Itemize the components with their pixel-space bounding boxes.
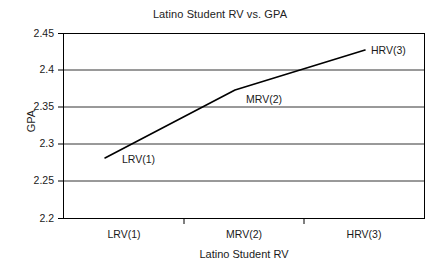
ytick-label-2-2: 2.2 xyxy=(20,212,54,224)
plot-frame xyxy=(64,34,425,219)
xtick-label-lrv: LRV(1) xyxy=(64,228,184,240)
point-label-mrv: MRV(2) xyxy=(246,93,282,105)
point-label-lrv: LRV(1) xyxy=(122,153,155,165)
point-label-hrv: HRV(3) xyxy=(371,44,406,56)
line-chart: Latino Student RV vs. GPA 2.45 2.4 2.35 … xyxy=(0,0,440,268)
ytick-label-2-25: 2.25 xyxy=(20,174,54,186)
xtick-label-hrv: HRV(3) xyxy=(304,228,424,240)
xtick-label-mrv: MRV(2) xyxy=(184,228,304,240)
x-axis-title: Latino Student RV xyxy=(63,248,425,260)
y-axis-title: GPA xyxy=(25,81,37,161)
ytick-label-2-4: 2.4 xyxy=(20,63,54,75)
ytick-label-2-45: 2.45 xyxy=(20,27,54,39)
